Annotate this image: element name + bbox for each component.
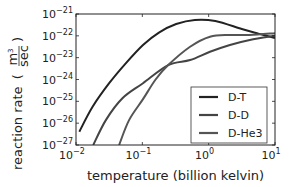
y-axis-label-main: reaction rate [10,86,25,170]
y-axis-label-text: reaction rate ( [10,74,25,170]
y-axis-units-denominator: sec [16,45,31,67]
y-tick-label: 10−25 [42,93,73,108]
x-tick-label: 10−1 [125,147,151,162]
legend-label-d-d: D-D [228,109,249,122]
y-tick-label: 10−22 [42,28,73,43]
x-tick-label: 100 [195,147,214,162]
y-tick-label: 10−24 [42,72,73,87]
y-axis-label-paren-open: ( [10,74,25,79]
legend-label-d-t: D-T [228,91,246,104]
y-tick-label: 10−23 [42,50,73,65]
x-tick-label: 10−2 [59,147,85,162]
legend: D-TD-DD-He3 [191,87,267,143]
chart: 10−210−1100101 10−2110−2210−2310−2410−25… [0,0,293,187]
y-axis-label-paren-close: ) [10,37,25,42]
y-tick-label: 10−26 [42,115,73,130]
y-tick-label: 10−21 [42,6,73,21]
x-axis-label: temperature (billion kelvin) [87,168,264,183]
legend-label-d-he3: D-He3 [228,127,262,140]
y-axis-label: reaction rate ( m3 sec ) [5,37,31,170]
x-tick-label: 101 [261,147,280,162]
